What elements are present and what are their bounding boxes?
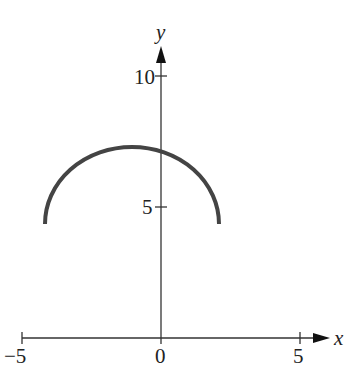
plot-area <box>0 0 351 388</box>
y-tick-label-5: 5 <box>142 197 153 218</box>
x-tick-label-0: 0 <box>155 346 166 367</box>
y-axis-arrow-icon <box>156 46 166 63</box>
x-axis-label: x <box>334 328 343 349</box>
semicircle-curve <box>45 147 219 224</box>
x-tick-label-neg5: −5 <box>4 346 26 367</box>
x-axis-arrow-icon <box>313 333 330 343</box>
y-tick-label-10: 10 <box>134 67 155 88</box>
x-tick-label-5: 5 <box>293 346 304 367</box>
y-axis-label: y <box>156 22 165 43</box>
